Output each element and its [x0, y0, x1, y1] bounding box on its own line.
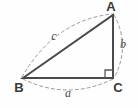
- right-angle-marker: [105, 70, 113, 78]
- side-label-a: a: [65, 86, 71, 100]
- triangle-outline: [23, 15, 113, 78]
- right-triangle-diagram: A B C a b c: [0, 0, 138, 108]
- vertex-label-a: A: [106, 0, 116, 14]
- figure-container: A B C a b c: [0, 0, 138, 108]
- side-label-b: b: [120, 37, 126, 51]
- arc-side-c: [22, 14, 112, 77]
- vertex-label-b: B: [14, 80, 23, 95]
- vertex-label-c: C: [113, 80, 123, 95]
- side-label-c: c: [51, 29, 57, 43]
